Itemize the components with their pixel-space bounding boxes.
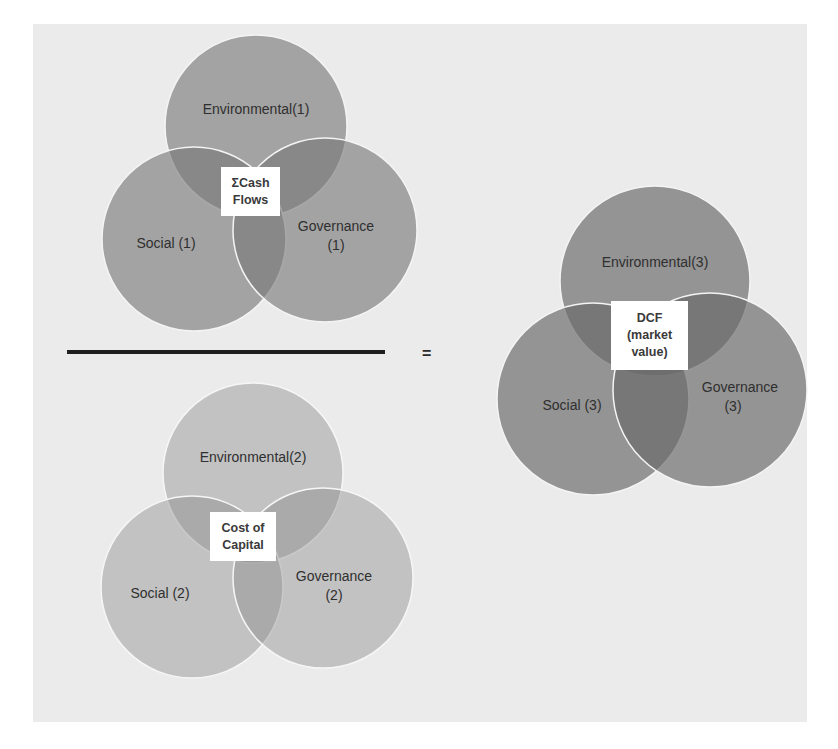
label-governance-1a: Governance (298, 218, 374, 234)
label-governance-3b: (3) (724, 398, 741, 414)
label-social-1: Social (1) (136, 235, 195, 251)
esg-dcf-venn-diagrams: Environmental(1) Social (1) Governance (… (0, 0, 838, 749)
label-social-2: Social (2) (130, 585, 189, 601)
label-environmental-2: Environmental(2) (200, 449, 307, 465)
label-governance-2b: (2) (325, 587, 342, 603)
label-box-cost-of-capital: Cost of Capital (210, 512, 276, 561)
label-environmental-1: Environmental(1) (203, 101, 310, 117)
fraction-bar (67, 350, 385, 354)
label-governance-3a: Governance (702, 379, 778, 395)
equals-sign: = (422, 345, 431, 363)
label-governance-1b: (1) (327, 237, 344, 253)
label-environmental-3: Environmental(3) (602, 254, 709, 270)
label-box-cash-flows: ΣCash Flows (221, 167, 280, 216)
label-box-dcf-market-value: DCF (market value) (611, 301, 688, 370)
label-social-3: Social (3) (542, 397, 601, 413)
label-governance-2a: Governance (296, 568, 372, 584)
